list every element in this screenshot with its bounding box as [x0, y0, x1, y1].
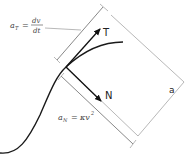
svg-text:dt: dt [33, 27, 40, 35]
a-tangential-dimension [45, 4, 108, 63]
svg-text:κv: κv [79, 113, 90, 122]
a-normal-formula: a N = κv 2 [58, 110, 94, 123]
a-tangential-formula: a T = dv dt [10, 17, 43, 35]
normal-vector-arrow [66, 67, 101, 101]
svg-text:=: = [71, 113, 78, 122]
normal-vector-label: N [105, 90, 112, 101]
svg-text:=: = [22, 21, 29, 30]
svg-text:N: N [62, 117, 68, 123]
acceleration-label: a [169, 85, 175, 95]
svg-text:T: T [15, 25, 19, 31]
a-normal-dimension [58, 73, 136, 148]
acceleration-diagram: T N a a T = dv dt a N = κv 2 [0, 0, 188, 160]
svg-text:dv: dv [32, 17, 40, 25]
svg-text:2: 2 [90, 110, 94, 116]
tangent-vector-label: T [102, 27, 110, 38]
